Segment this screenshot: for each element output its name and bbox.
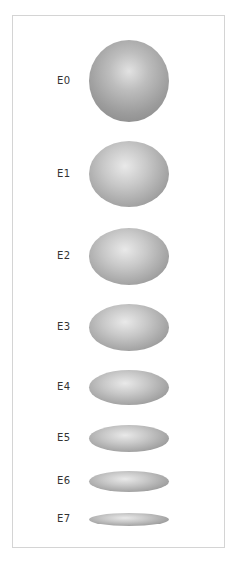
shape-e5 [89,425,169,452]
label-e5: E5 [57,433,81,443]
label-e6: E6 [57,476,81,486]
shape-e2 [89,228,169,285]
shape-e6 [89,471,169,492]
label-e0: E0 [57,76,81,86]
shape-e4 [89,370,169,405]
shape-e7 [89,513,169,526]
label-e7: E7 [57,514,81,524]
shape-e0 [89,40,169,122]
label-e4: E4 [57,382,81,392]
label-e3: E3 [57,322,81,332]
label-e1: E1 [57,169,81,179]
shape-e3 [89,304,169,351]
shape-e1 [89,141,169,207]
label-e2: E2 [57,251,81,261]
